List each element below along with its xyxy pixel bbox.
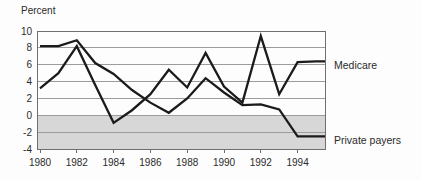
x-tick-label: 1982 [66, 157, 89, 168]
y-tick-label: 10 [21, 26, 33, 37]
series-label-private-payers: Private payers [334, 134, 401, 146]
series-label-medicare: Medicare [334, 59, 377, 71]
x-tick-label: 1988 [176, 157, 199, 168]
line-chart: Percent 1086420-2-4 19801982198419861988… [0, 0, 421, 180]
x-tick-label: 1992 [250, 157, 273, 168]
x-tick-label: 1994 [286, 157, 309, 168]
y-tick-label: 8 [26, 42, 32, 53]
line-chart-svg: Percent 1086420-2-4 19801982198419861988… [0, 0, 421, 180]
y-tick-label: 0 [26, 110, 32, 121]
x-tick-label: 1980 [29, 157, 52, 168]
y-tick-label: -4 [23, 144, 32, 155]
x-tick-label: 1990 [213, 157, 236, 168]
y-tick-label: -2 [23, 127, 32, 138]
y-tick-label: 6 [26, 59, 32, 70]
y-tick-label: 4 [26, 76, 32, 87]
series-labels: MedicarePrivate payers [334, 59, 401, 146]
x-tick-label: 1984 [102, 157, 125, 168]
y-tick-label: 2 [26, 93, 32, 104]
x-axis-ticks [40, 149, 298, 153]
x-tick-label: 1986 [139, 157, 162, 168]
x-axis-labels: 19801982198419861988199019921994 [29, 157, 309, 168]
y-axis-title: Percent [21, 5, 56, 16]
y-axis-labels: 1086420-2-4 [21, 26, 33, 155]
